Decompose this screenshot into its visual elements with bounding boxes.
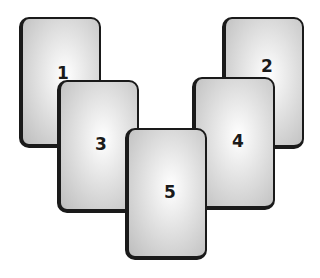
card-2-number: 2 <box>261 58 273 75</box>
card-1-number: 1 <box>57 65 69 82</box>
card-3-number: 3 <box>95 136 107 153</box>
card-5-number: 5 <box>164 184 176 201</box>
card-5: 5 <box>125 128 207 260</box>
card-4-number: 4 <box>232 133 244 150</box>
